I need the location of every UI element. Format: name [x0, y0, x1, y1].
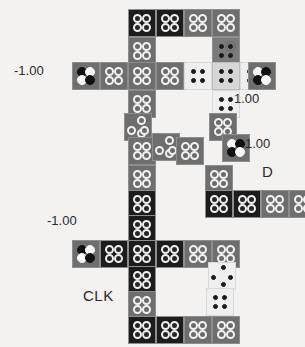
quantum-dot: [161, 14, 170, 23]
quantum-dot: [105, 245, 114, 254]
cell-r7c6[interactable]: [289, 190, 305, 218]
quantum-dot: [219, 44, 224, 49]
cell-r2c2[interactable]: [184, 62, 212, 90]
cell-r0c0[interactable]: [128, 9, 156, 37]
quantum-dot: [211, 275, 216, 280]
quantum-dot: [213, 295, 218, 300]
quantum-dot: [200, 69, 205, 74]
quantum-dot: [133, 104, 142, 113]
quantum-dot: [219, 69, 224, 74]
quantum-dot: [189, 23, 198, 32]
quantum-dot: [142, 14, 151, 23]
quantum-dot: [133, 170, 142, 179]
quantum-dot: [170, 245, 179, 254]
cell-r11c0[interactable]: [128, 291, 156, 319]
quantum-dot: [189, 330, 198, 339]
cell-r9c1[interactable]: [156, 240, 184, 268]
cell-r0c1[interactable]: [156, 9, 184, 37]
cell-r9c-1[interactable]: [100, 240, 128, 268]
cell-r6c0[interactable]: [128, 165, 156, 193]
cell-r12c2[interactable]: [184, 316, 212, 344]
quantum-dot: [133, 151, 142, 160]
quantum-dot: [133, 305, 142, 314]
polarization-right-top: 1.00: [234, 92, 259, 105]
cell-r7c4[interactable]: [233, 190, 261, 218]
quantum-dot: [142, 76, 151, 85]
quantum-dot: [114, 245, 123, 254]
quantum-dot: [181, 151, 190, 160]
quantum-dot: [133, 23, 142, 32]
quantum-dot: [266, 195, 275, 204]
quantum-dot: [238, 204, 247, 213]
quantum-dot: [223, 118, 232, 127]
quantum-dot: [133, 51, 142, 60]
cell-r2c-1[interactable]: [100, 62, 128, 90]
quantum-dot: [275, 204, 284, 213]
cell-r8c0[interactable]: [128, 215, 156, 243]
quantum-dot: [189, 321, 198, 330]
cell-r7c5[interactable]: [261, 190, 289, 218]
cell-r10c3[interactable]: [208, 262, 236, 290]
cell-r2c1[interactable]: [156, 62, 184, 90]
quantum-dot: [198, 23, 207, 32]
quantum-dot: [105, 76, 114, 85]
cell-r7c0[interactable]: [128, 190, 156, 218]
cell-r10c0[interactable]: [128, 266, 156, 294]
cell-r9c0[interactable]: [128, 240, 156, 268]
qca-diagram-canvas: -1.00Q1.001.00D-1.00CLK: [0, 0, 305, 347]
quantum-dot: [133, 14, 142, 23]
cell-r2c-2[interactable]: [72, 62, 100, 90]
quantum-dot: [142, 104, 151, 113]
cell-r1c0[interactable]: [128, 37, 156, 65]
cell-r12c1[interactable]: [156, 316, 184, 344]
quantum-dot: [142, 305, 151, 314]
quantum-dot: [161, 23, 170, 32]
quantum-dot: [114, 76, 123, 85]
quantum-dot: [219, 204, 228, 213]
quantum-dot: [133, 330, 142, 339]
cell-r11c3[interactable]: [206, 288, 234, 316]
cell-r0c3[interactable]: [212, 9, 240, 37]
quantum-dot: [226, 14, 235, 23]
quantum-dot: [217, 23, 226, 32]
quantum-dot: [133, 280, 142, 289]
quantum-dot: [219, 97, 224, 102]
quantum-dot: [142, 321, 151, 330]
cell-r2c5[interactable]: [248, 62, 276, 90]
cell-r0c2[interactable]: [184, 9, 212, 37]
quantum-dot: [210, 195, 219, 204]
quantum-dot: [266, 204, 275, 213]
quantum-dot: [133, 76, 142, 85]
polarization-top-left: -1.00: [14, 64, 44, 77]
quantum-dot: [189, 245, 198, 254]
quantum-dot: [189, 254, 198, 263]
quantum-dot: [221, 282, 226, 287]
quantum-dot: [210, 179, 219, 188]
quantum-dot: [142, 220, 151, 229]
quantum-dot: [170, 76, 179, 85]
cell-r6c3[interactable]: [205, 165, 233, 193]
quantum-dot: [161, 67, 170, 76]
cell-r2c3[interactable]: [212, 62, 240, 90]
quantum-dot: [114, 254, 123, 263]
quantum-dot: [170, 321, 179, 330]
cell-r5c2[interactable]: [176, 137, 204, 165]
quantum-dot: [133, 195, 142, 204]
cell-r2c0[interactable]: [128, 62, 156, 90]
quantum-dot: [221, 265, 226, 270]
quantum-dot: [275, 195, 284, 204]
cell-r7c3[interactable]: [205, 190, 233, 218]
quantum-dot: [228, 106, 233, 111]
quantum-dot: [217, 330, 226, 339]
quantum-dot: [133, 296, 142, 305]
polarization-right-mid: 1.00: [245, 137, 270, 150]
quantum-dot: [228, 97, 233, 102]
cell-r9c-2[interactable]: [72, 240, 100, 268]
cell-r12c0[interactable]: [128, 316, 156, 344]
quantum-dot: [219, 179, 228, 188]
quantum-dot: [133, 321, 142, 330]
quantum-dot: [133, 220, 142, 229]
cell-r12c3[interactable]: [212, 316, 240, 344]
quantum-dot: [190, 142, 199, 151]
quantum-dot: [161, 76, 170, 85]
